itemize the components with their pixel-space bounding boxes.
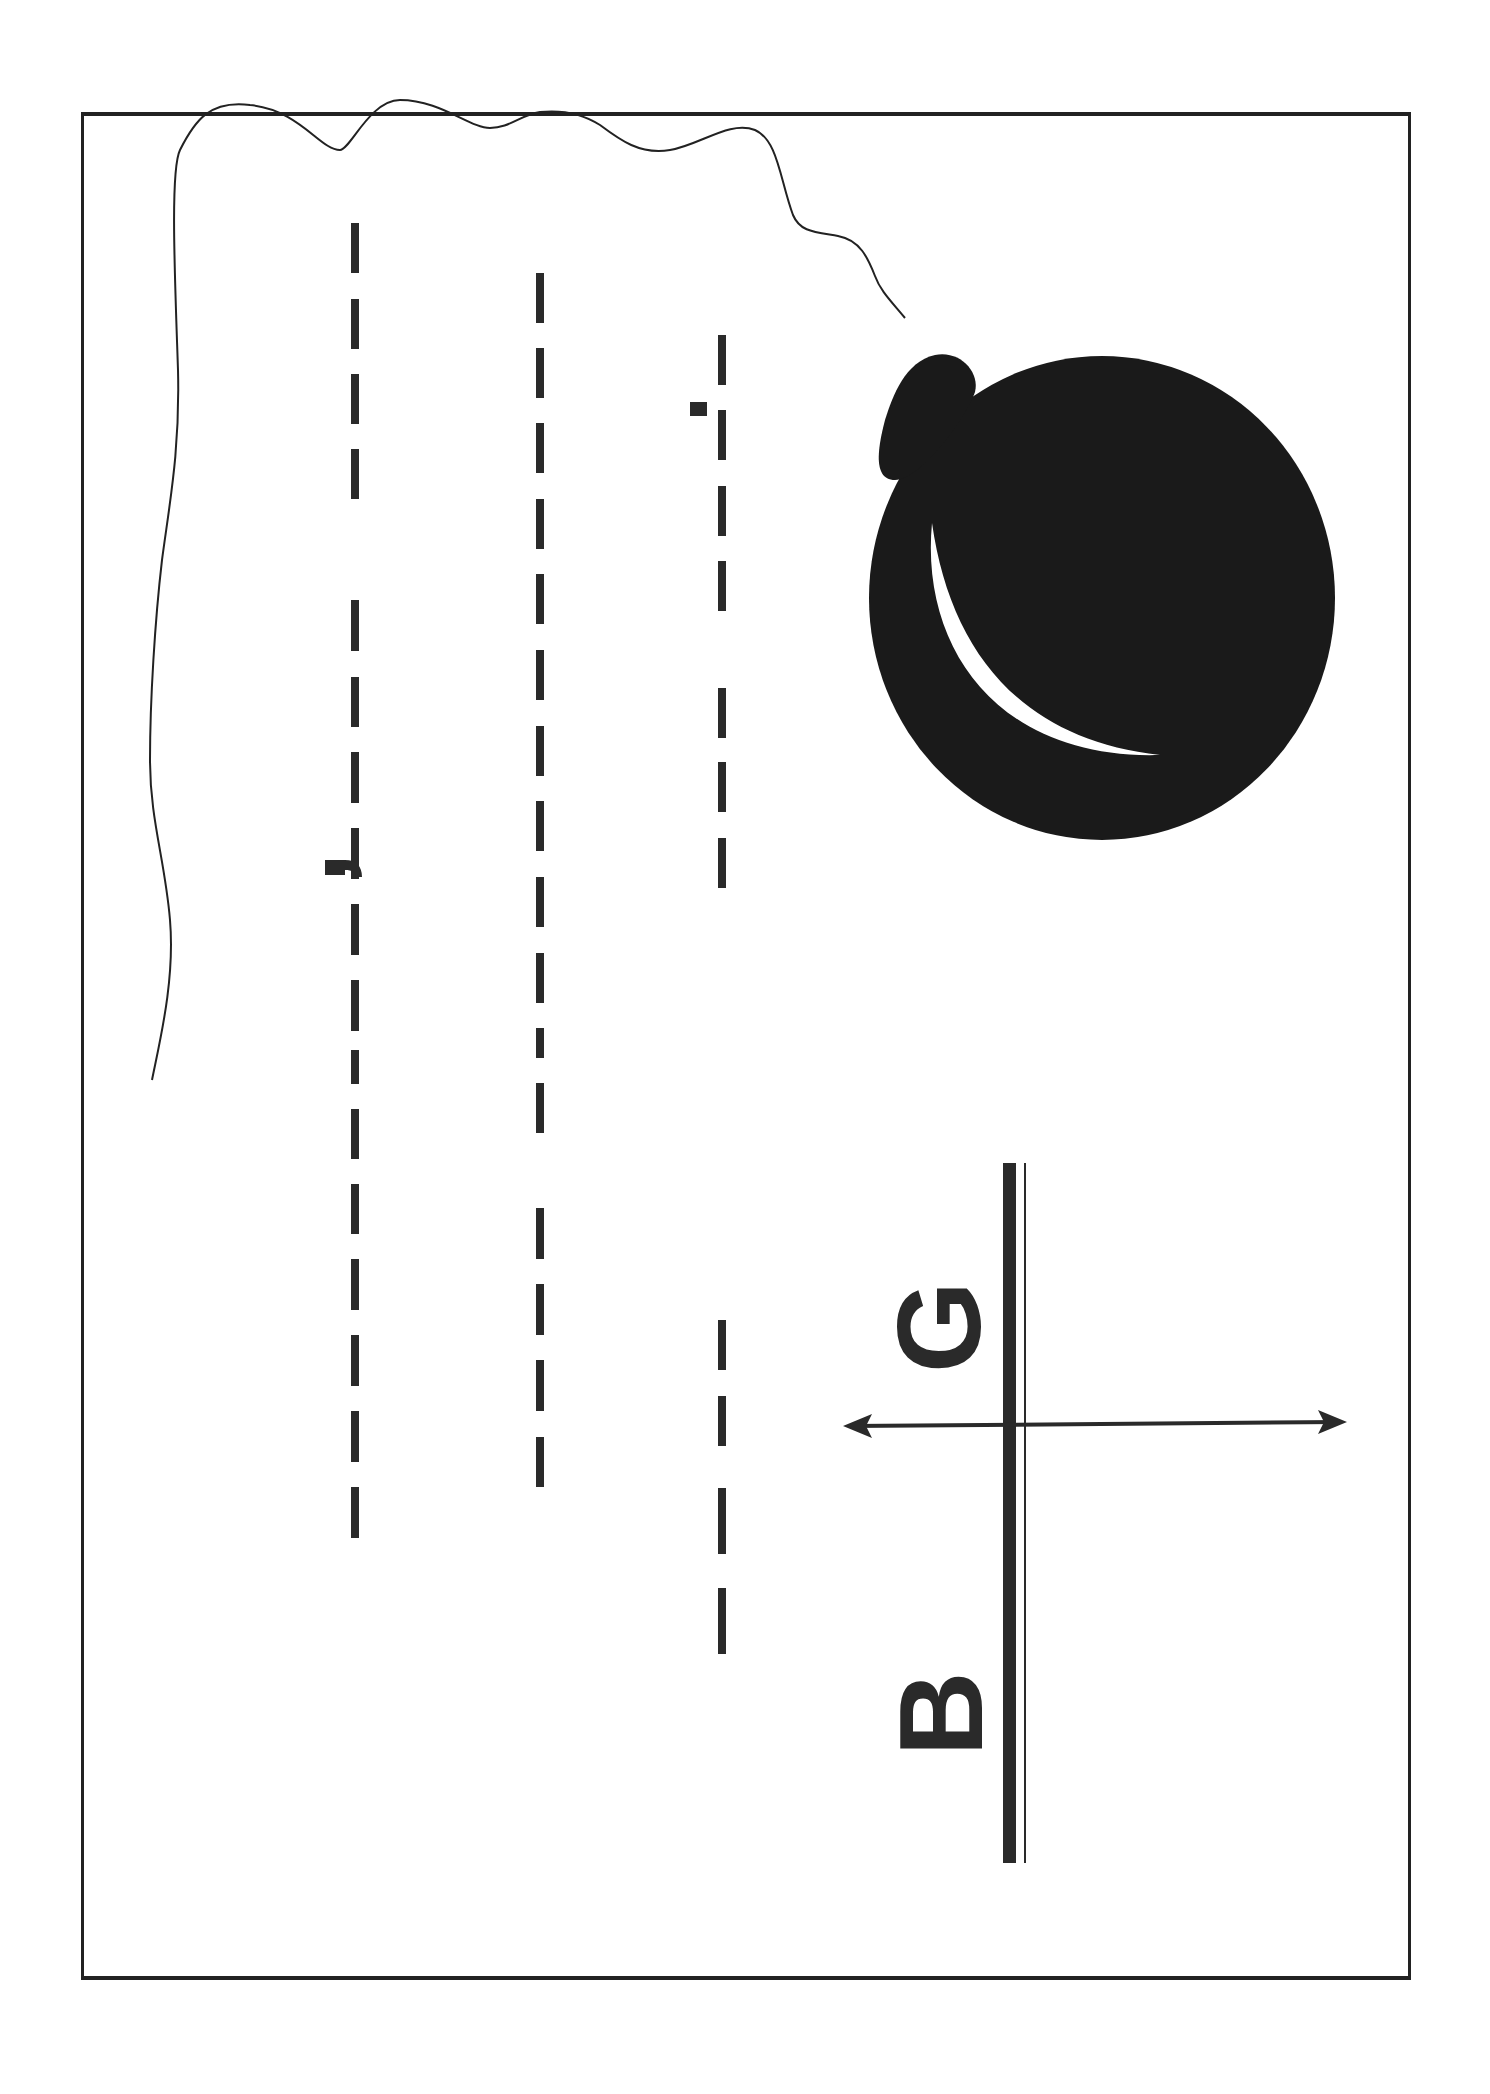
tracing-dash <box>718 688 726 738</box>
tracing-dash <box>718 1396 726 1446</box>
tracing-dash <box>536 273 544 323</box>
tracing-dash <box>351 1411 359 1462</box>
tracing-dash <box>718 335 726 385</box>
double-arrow-icon <box>843 1410 1347 1438</box>
balloon-string-icon <box>150 100 905 1080</box>
tracing-dash <box>536 1360 544 1411</box>
tracing-dash <box>536 650 544 700</box>
baseline-thin-rule <box>1024 1163 1026 1863</box>
balloon-icon <box>869 354 1335 840</box>
tracing-dash <box>351 1109 359 1159</box>
tracing-dash <box>351 1487 359 1538</box>
tracing-dash <box>351 980 359 1031</box>
tracing-dash <box>536 877 544 927</box>
tracing-dash <box>351 1184 359 1234</box>
worksheet-artwork <box>0 0 1490 2094</box>
tracing-dash <box>536 423 544 473</box>
tracing-dash <box>536 348 544 398</box>
tracing-dash <box>351 904 359 955</box>
label-right-letter: G <box>880 1281 998 1373</box>
tracing-dash <box>718 486 726 536</box>
tracing-dash <box>536 1284 544 1335</box>
tracing-dash <box>536 1083 544 1133</box>
tracing-dash <box>718 561 726 611</box>
tracing-dash <box>536 1208 544 1259</box>
tracing-dash <box>351 449 359 499</box>
tracing-dash <box>536 1028 544 1058</box>
tracing-dash <box>536 499 544 549</box>
tracing-dot-mark-icon <box>690 402 707 416</box>
tracing-dash <box>718 1588 726 1654</box>
tracing-dash <box>351 600 359 651</box>
tracing-dash <box>351 1259 359 1310</box>
tracing-dash <box>718 1488 726 1554</box>
tracing-dash <box>351 677 359 727</box>
baseline-thick-rule <box>1003 1163 1016 1863</box>
tracing-dash <box>718 838 726 888</box>
tracing-dash <box>536 953 544 1003</box>
tracing-dash <box>718 762 726 812</box>
tracing-dash <box>351 223 359 273</box>
tracing-dash <box>351 374 359 424</box>
tracing-dash <box>536 801 544 851</box>
tracing-dash <box>718 410 726 460</box>
tracing-dash <box>536 574 544 624</box>
tracing-dash <box>351 299 359 349</box>
tracing-dash <box>536 1437 544 1487</box>
label-left-letter: B <box>882 1671 1000 1756</box>
tracing-dash <box>718 1320 726 1370</box>
tracing-lines <box>351 223 726 1654</box>
tracing-dash <box>351 1335 359 1386</box>
tracing-dash <box>351 752 359 803</box>
tracing-dash <box>536 726 544 776</box>
tracing-dash <box>351 1050 359 1084</box>
balloon-string-icon <box>742 78 880 320</box>
